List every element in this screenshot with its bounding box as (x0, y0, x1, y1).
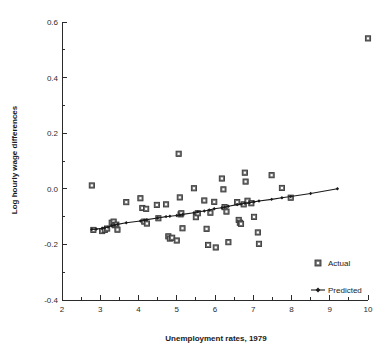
actual-marker-center (171, 237, 173, 239)
actual-marker-center (253, 216, 255, 218)
actual-marker-center (236, 201, 238, 203)
data-point-actual (177, 195, 182, 200)
data-point-actual (219, 176, 224, 181)
data-point-actual (365, 36, 370, 41)
data-point-actual (174, 238, 179, 243)
actual-marker-center (205, 228, 207, 230)
actual-marker-center (141, 207, 143, 209)
data-point-actual (206, 242, 211, 247)
data-point-actual (242, 170, 247, 175)
actual-marker-center (178, 153, 180, 155)
y-tick-label: -0.4 (44, 296, 58, 305)
data-point-actual (138, 196, 143, 201)
data-point-actual (180, 226, 185, 231)
data-point-actual (238, 221, 243, 226)
data-point-actual (213, 245, 218, 250)
actual-marker-center (145, 208, 147, 210)
actual-marker-center (367, 37, 369, 39)
y-axis-title: Log hourly wage differences (10, 105, 19, 214)
legend-label-predicted: Predicted (328, 286, 362, 295)
data-point-actual (202, 198, 207, 203)
legend-square-inner-icon (317, 262, 319, 264)
actual-marker-center (156, 204, 158, 206)
data-point-actual (255, 230, 260, 235)
chart-canvas: -0.4-0.20.00.20.40.6 2345678910 Actual P… (0, 0, 387, 355)
data-point-actual (144, 221, 149, 226)
actual-marker-center (181, 227, 183, 229)
actual-marker-center (125, 201, 127, 203)
actual-marker-center (271, 174, 273, 176)
data-point-actual (144, 206, 149, 211)
data-point-actual (154, 202, 159, 207)
chart-background (0, 0, 387, 355)
y-tick-label: 0.4 (47, 74, 59, 83)
data-point-actual (243, 179, 248, 184)
actual-marker-center (116, 229, 118, 231)
data-point-actual (224, 209, 229, 214)
actual-marker-center (215, 246, 217, 248)
actual-marker-center (240, 223, 242, 225)
data-point-actual (115, 227, 120, 232)
data-point-actual (221, 187, 226, 192)
data-point-actual (269, 173, 274, 178)
data-point-actual (212, 199, 217, 204)
x-tick-label: 5 (175, 305, 180, 314)
x-tick-label: 2 (60, 305, 65, 314)
x-tick-label: 3 (98, 305, 103, 314)
actual-marker-center (195, 216, 197, 218)
x-tick-label: 10 (364, 305, 373, 314)
y-tick-label: 0.6 (47, 18, 59, 27)
y-tick-label: 0.2 (47, 129, 59, 138)
actual-marker-center (227, 241, 229, 243)
actual-marker-center (207, 244, 209, 246)
actual-marker-center (146, 222, 148, 224)
actual-marker-center (225, 210, 227, 212)
data-point-actual (191, 186, 196, 191)
legend-label-actual: Actual (328, 259, 350, 268)
actual-marker-center (203, 199, 205, 201)
y-tick-label: -0.2 (44, 240, 58, 249)
x-tick-label: 4 (136, 305, 141, 314)
actual-marker-center (209, 212, 211, 214)
x-tick-label: 7 (251, 305, 256, 314)
x-tick-label: 8 (289, 305, 294, 314)
actual-marker-center (165, 203, 167, 205)
data-point-actual (226, 240, 231, 245)
actual-marker-center (176, 239, 178, 241)
actual-marker-center (213, 201, 215, 203)
actual-marker-center (258, 243, 260, 245)
data-point-actual (256, 241, 261, 246)
data-point-actual (89, 183, 94, 188)
actual-marker-center (193, 187, 195, 189)
data-point-actual (163, 202, 168, 207)
actual-marker-center (281, 187, 283, 189)
actual-marker-center (179, 196, 181, 198)
actual-marker-center (221, 177, 223, 179)
x-tick-label: 6 (213, 305, 218, 314)
x-axis-title: Unemployment rates, 1979 (165, 334, 267, 343)
data-point-actual (204, 226, 209, 231)
scatter-plot-figure: -0.4-0.20.00.20.40.6 2345678910 Actual P… (0, 0, 387, 355)
data-point-actual (124, 200, 129, 205)
data-point-actual (251, 214, 256, 219)
data-point-actual (279, 185, 284, 190)
x-tick-label: 9 (328, 305, 333, 314)
actual-marker-center (257, 231, 259, 233)
actual-marker-center (139, 197, 141, 199)
actual-marker-center (246, 200, 248, 202)
y-tick-label: 0.0 (47, 185, 59, 194)
data-point-actual (176, 151, 181, 156)
actual-marker-center (222, 188, 224, 190)
actual-marker-center (91, 184, 93, 186)
actual-marker-center (245, 180, 247, 182)
actual-marker-center (244, 172, 246, 174)
